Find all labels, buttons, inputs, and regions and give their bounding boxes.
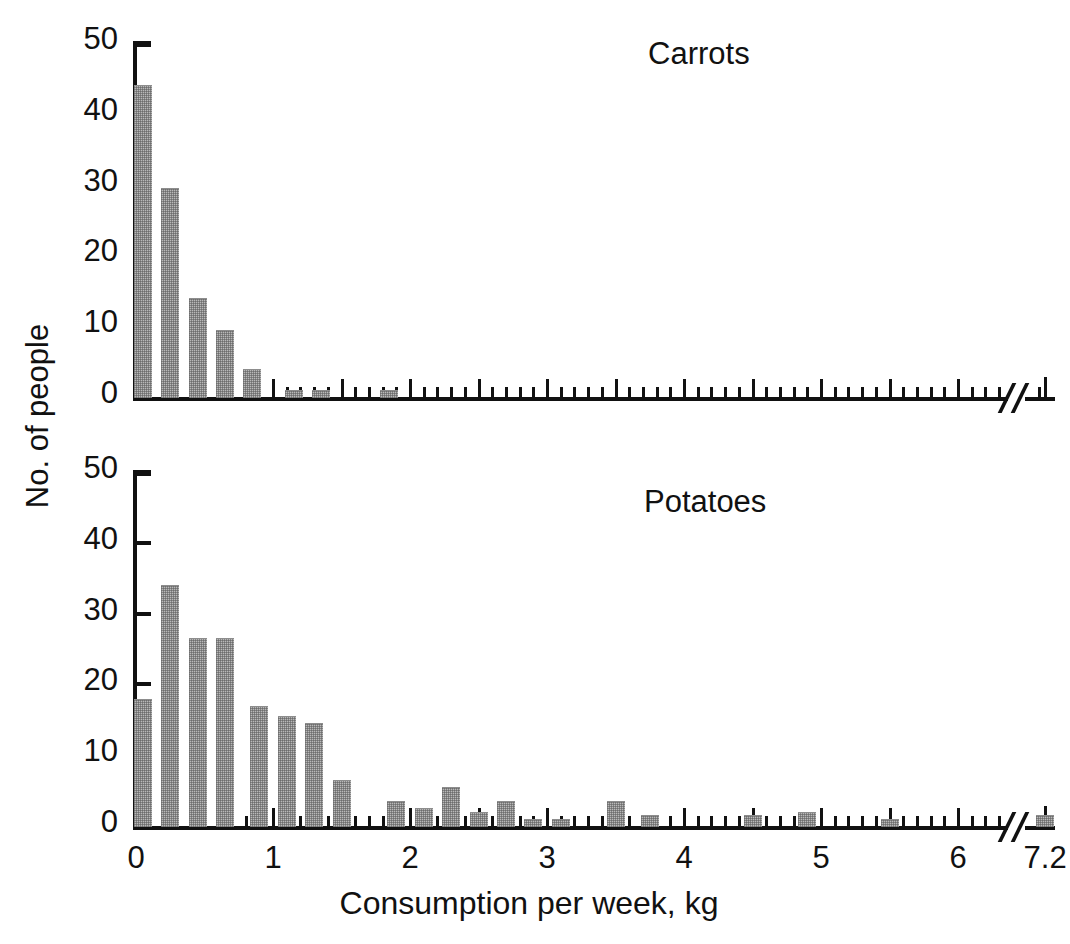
bar [134, 699, 152, 827]
y-tick [133, 612, 151, 616]
x-tick [738, 816, 741, 826]
x-tick-label: 2 [355, 840, 465, 876]
x-tick [820, 808, 823, 826]
x-tick [834, 816, 837, 826]
x-tick [409, 808, 412, 826]
x-tick [875, 816, 878, 826]
x-tick [327, 816, 330, 826]
bar [161, 585, 179, 827]
bar [1036, 815, 1054, 827]
x-tick [971, 816, 974, 826]
x-tick [697, 816, 700, 826]
x-tick [710, 816, 713, 826]
x-tick [847, 816, 850, 826]
x-tick-label: 3 [492, 840, 602, 876]
x-tick-label: 5 [766, 840, 876, 876]
y-axis-cap [133, 472, 151, 476]
bar [798, 812, 816, 827]
bar [881, 819, 899, 827]
x-tick [765, 816, 768, 826]
bar [415, 808, 433, 827]
x-tick [573, 816, 576, 826]
x-tick-label: 7.2 [990, 840, 1070, 876]
bar [333, 780, 351, 827]
x-tick [628, 816, 631, 826]
x-tick-label: 0 [81, 840, 191, 876]
y-tick-label: 40 [18, 521, 118, 557]
x-tick [930, 816, 933, 826]
x-tick [546, 808, 549, 826]
x-tick [601, 816, 604, 826]
bar [250, 706, 268, 827]
chart-panel-potatoes: 0102030405001234567.2Potatoes [0, 0, 1058, 886]
x-tick [436, 816, 439, 826]
bar [278, 716, 296, 827]
bar [641, 815, 659, 827]
x-tick [519, 816, 522, 826]
bar [552, 819, 570, 827]
x-tick [368, 816, 371, 826]
x-tick [916, 816, 919, 826]
bar [524, 819, 542, 827]
x-tick [793, 816, 796, 826]
bar [387, 801, 405, 827]
panel-title: Potatoes [644, 484, 766, 520]
x-tick [957, 808, 960, 826]
x-tick-label: 4 [629, 840, 739, 876]
x-tick [724, 816, 727, 826]
x-tick [587, 816, 590, 826]
y-tick-label: 10 [18, 733, 118, 769]
x-tick [491, 816, 494, 826]
y-tick-label: 0 [18, 804, 118, 840]
bar [305, 723, 323, 827]
x-tick [245, 816, 248, 826]
x-tick [984, 816, 987, 826]
x-tick [464, 816, 467, 826]
bar [497, 801, 515, 827]
y-tick-label: 50 [18, 450, 118, 486]
x-tick [382, 816, 385, 826]
x-tick [669, 816, 672, 826]
x-tick [354, 816, 357, 826]
bar [607, 801, 625, 827]
bar [470, 812, 488, 827]
bar [744, 815, 762, 827]
x-tick [779, 816, 782, 826]
bar [189, 638, 207, 827]
y-tick [133, 682, 151, 686]
x-tick [943, 816, 946, 826]
x-tick-label: 1 [218, 840, 328, 876]
axis-break-marks [1005, 812, 1035, 842]
x-tick [861, 816, 864, 826]
x-tick [902, 816, 905, 826]
bar [442, 787, 460, 827]
y-tick-label: 20 [18, 662, 118, 698]
x-tick [683, 808, 686, 826]
x-tick [299, 816, 302, 826]
x-tick [998, 816, 1001, 826]
bar [216, 638, 234, 827]
x-tick [272, 808, 275, 826]
x-axis-title: Consumption per week, kg [0, 885, 1058, 922]
y-tick [133, 541, 151, 545]
y-tick-label: 30 [18, 592, 118, 628]
